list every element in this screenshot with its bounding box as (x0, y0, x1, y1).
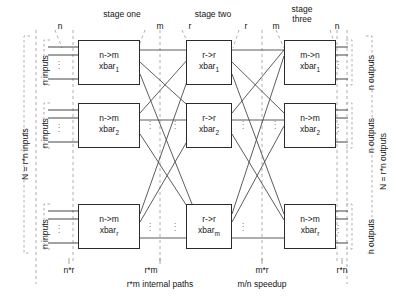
tick-r-right (233, 30, 239, 48)
xbar-label: xbarm (198, 225, 220, 239)
xbar-type: n->m (300, 113, 320, 124)
internal-paths-note: r*m internal paths (127, 280, 194, 290)
ellipsis-input-3: ··· (58, 224, 61, 234)
xbar-type: m->n (300, 50, 320, 61)
right-group-2-label: n outputs (366, 118, 376, 153)
bottom-tick-rn: r*n (337, 266, 348, 276)
stage-two-xbar-1[interactable]: r->r xbar1 (186, 40, 232, 85)
stage-one-xbar-r[interactable]: n->m xbarr (78, 204, 140, 249)
stage-one-title: stage one (103, 10, 140, 20)
top-tick-m-right: m (272, 22, 279, 32)
right-total-outputs-label: N = r*n outputs (378, 133, 388, 190)
left-group-2-label: n inputs (40, 118, 50, 148)
ellipsis-output-3: ··· (337, 224, 340, 234)
xbar-type: r->r (202, 50, 215, 61)
stage-one-xbar-2[interactable]: n->m xbar2 (78, 103, 140, 148)
xbar-label: xbar1 (99, 61, 119, 75)
tick-n-left (55, 30, 62, 48)
ellipsis-stage-two-left-b: ··· (174, 222, 177, 232)
bottom-tick-nr: n*r (64, 266, 75, 276)
top-tick-m-left: m (156, 22, 163, 32)
stage-two-title: stage two (195, 10, 231, 20)
xbar-label: xbar2 (99, 124, 119, 138)
stage-two-to-three-links (232, 50, 284, 238)
stage-three-xbar-2[interactable]: n->m xbar2 (284, 103, 336, 148)
ellipsis-stage-two-left: ··· (174, 120, 177, 130)
right-group-3-label: n outputs (366, 219, 376, 254)
ellipsis-input-1: ··· (58, 60, 61, 70)
bottom-tick-rm: r*m (144, 266, 157, 276)
ellipsis-stage-three-rows: ··· (274, 120, 277, 130)
stage-one-xbar-1[interactable]: n->m xbar1 (78, 40, 140, 85)
xbar-type: n->m (99, 113, 119, 124)
top-tick-n-left: n (58, 22, 63, 32)
ellipsis-stage-one-rows-b: ··· (149, 222, 152, 232)
tick-m-right (276, 30, 284, 48)
stage-three-title-line2: three (292, 15, 311, 25)
stage-three-xbar-1[interactable]: m->n xbar1 (284, 40, 336, 85)
ellipsis-stage-two-right-b: ··· (242, 222, 245, 232)
top-tick-n-right: n (335, 22, 340, 32)
top-tick-r-right: r (245, 22, 248, 32)
top-tick-r-left: r (189, 22, 192, 32)
xbar-type: r->r (202, 214, 215, 225)
xbar-label: xbar1 (300, 61, 320, 75)
stage-three-xbar-r[interactable]: n->m xbarr (284, 204, 336, 249)
link-s2-m-s3-1 (232, 56, 284, 214)
right-group-1-label: n outputs (366, 55, 376, 90)
speedup-note: m/n speedup (237, 280, 286, 290)
ellipsis-input-2: ··· (58, 123, 61, 133)
left-group-1-label: n inputs (40, 55, 50, 85)
ellipsis-stage-one-rows: ··· (149, 120, 152, 130)
ellipsis-output-2: ··· (337, 123, 340, 133)
left-total-inputs-label: N = r*n inputs (20, 128, 30, 180)
xbar-label: xbar1 (199, 61, 219, 75)
stage-two-xbar-2[interactable]: r->r xbar2 (186, 103, 232, 148)
xbar-label: xbar2 (199, 124, 219, 138)
stage-two-xbar-m[interactable]: r->r xbarm (186, 204, 232, 249)
left-group-3-label: n inputs (40, 219, 50, 249)
ellipsis-output-1: ··· (337, 60, 340, 70)
xbar-type: r->r (202, 113, 215, 124)
xbar-type: n->m (99, 214, 119, 225)
ellipsis-stage-two-right: ··· (242, 120, 245, 130)
bottom-tick-marks (69, 258, 342, 264)
xbar-type: n->m (300, 214, 320, 225)
xbar-label: xbarr (100, 225, 119, 239)
clos-network-diagram: stage one stage two stage three n m r r … (0, 0, 396, 297)
input-lines (48, 47, 78, 243)
xbar-label: xbar2 (300, 124, 320, 138)
xbar-type: n->m (99, 50, 119, 61)
xbar-label: xbarr (301, 225, 320, 239)
link-s2-1-s3-r (232, 74, 284, 214)
bottom-tick-mr: m*r (255, 266, 268, 276)
link-s2-1-s3-2 (232, 62, 284, 113)
link-s2-2-s3-1 (232, 50, 284, 113)
